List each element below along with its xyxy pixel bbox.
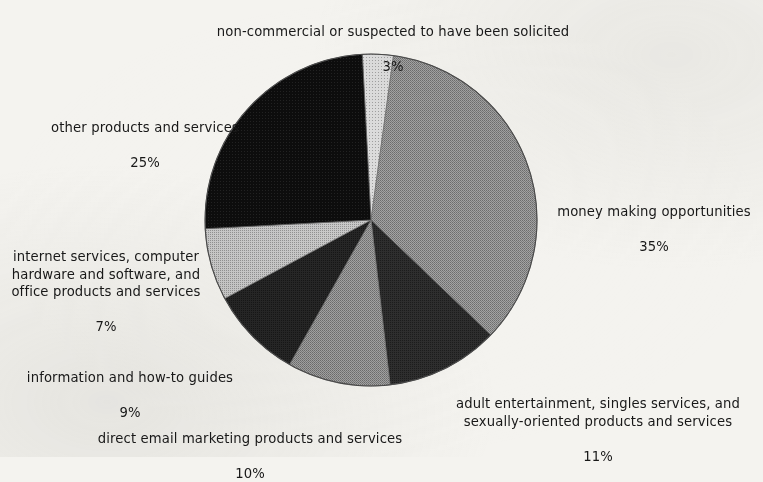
- slice-label-text: internet services, computer hardware and…: [0, 248, 212, 300]
- slice-label-value: 7%: [0, 318, 212, 335]
- slice-label-value: 25%: [16, 154, 274, 171]
- slice-label-value: 11%: [437, 448, 759, 465]
- slice-label-value: 10%: [60, 465, 440, 482]
- slice-label-text: non-commercial or suspected to have been…: [198, 23, 588, 40]
- slice-label-non-commercial: non-commercial or suspected to have been…: [198, 6, 588, 93]
- slice-label-text: money making opportunities: [546, 203, 762, 220]
- slice-label-other-products: other products and services 25%: [16, 102, 274, 189]
- slice-label-money-making: money making opportunities 35%: [546, 186, 762, 273]
- slice-label-adult-entertainment: adult entertainment, singles services, a…: [437, 378, 759, 482]
- slice-label-internet-services: internet services, computer hardware and…: [0, 231, 212, 353]
- slice-label-value: 35%: [546, 238, 762, 255]
- slice-label-value: 3%: [198, 58, 588, 75]
- slice-label-text: information and how-to guides: [6, 369, 254, 386]
- slice-label-text: other products and services: [16, 119, 274, 136]
- slice-label-direct-email-marketing: direct email marketing products and serv…: [60, 413, 440, 482]
- slice-label-text: adult entertainment, singles services, a…: [437, 395, 759, 430]
- slice-label-text: direct email marketing products and serv…: [60, 430, 440, 447]
